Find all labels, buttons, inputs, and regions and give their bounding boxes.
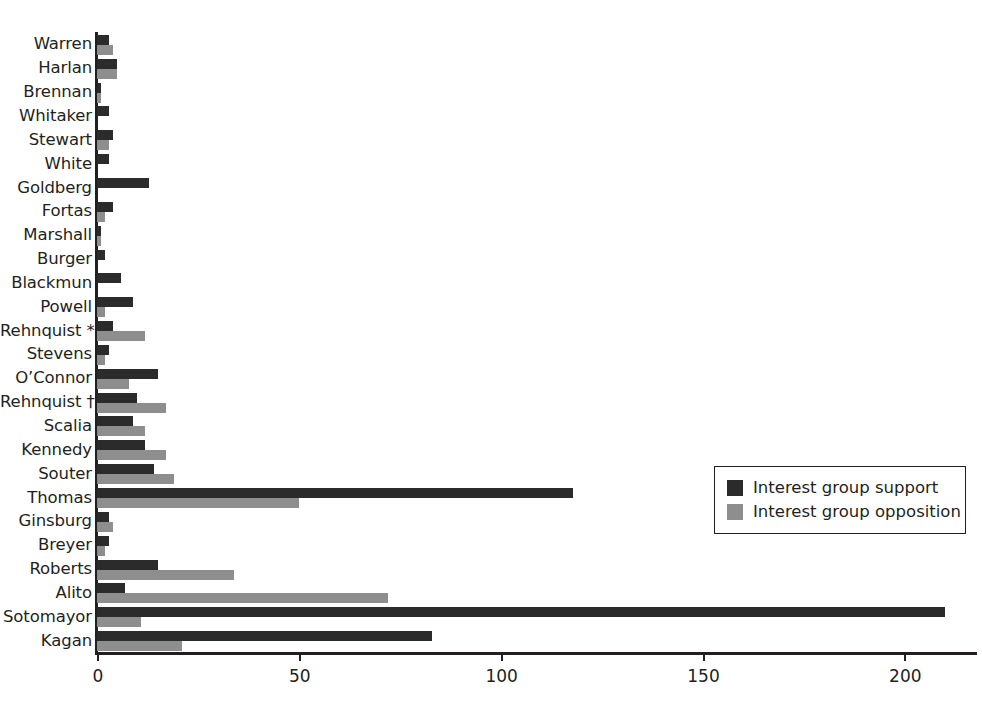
bar-group: [97, 369, 977, 389]
bar-opposition: [97, 593, 388, 603]
bar-group: [97, 226, 977, 246]
bar-opposition: [97, 450, 166, 460]
bar-opposition: [97, 307, 105, 317]
bar-group: [97, 106, 977, 126]
x-axis-tick-label: 100: [472, 666, 532, 686]
bar-opposition: [97, 331, 145, 341]
bar-opposition: [97, 617, 141, 627]
bar-opposition: [97, 212, 105, 222]
bar-group: [97, 59, 977, 79]
bar-opposition: [97, 546, 105, 556]
bar-support: [97, 106, 109, 116]
category-label: Warren: [0, 36, 92, 53]
bar-group: [97, 536, 977, 556]
bar-opposition: [97, 69, 117, 79]
x-axis-tick: [97, 652, 99, 661]
category-label: Ginsburg: [0, 513, 92, 530]
category-label: Stevens: [0, 346, 92, 363]
legend-swatch-opposition-icon: [727, 504, 743, 520]
bar-support: [97, 345, 109, 355]
bar-group: [97, 393, 977, 413]
bar-support: [97, 59, 117, 69]
bar-group: [97, 583, 977, 603]
bar-support: [97, 393, 137, 403]
bar-support: [97, 416, 133, 426]
bar-support: [97, 583, 125, 593]
chart-legend: Interest group support Interest group op…: [714, 466, 966, 534]
bar-support: [97, 250, 105, 260]
category-label: Roberts: [0, 561, 92, 578]
bar-group: [97, 321, 977, 341]
x-axis-tick-label: 150: [674, 666, 734, 686]
category-label: Rehnquist *: [0, 323, 92, 340]
x-axis-tick: [703, 652, 705, 661]
category-label: Scalia: [0, 418, 92, 435]
bar-support: [97, 321, 113, 331]
bar-opposition: [97, 403, 166, 413]
category-label: Blackmun: [0, 275, 92, 292]
category-label: Thomas: [0, 490, 92, 507]
x-axis-tick: [299, 652, 301, 661]
category-label: Souter: [0, 466, 92, 483]
bar-support: [97, 226, 101, 236]
bar-support: [97, 202, 113, 212]
bar-support: [97, 440, 145, 450]
bar-group: [97, 250, 977, 270]
bar-opposition: [97, 93, 101, 103]
bar-group: [97, 440, 977, 460]
bar-opposition: [97, 474, 174, 484]
bar-opposition: [97, 379, 129, 389]
legend-item-opposition: Interest group opposition: [727, 500, 953, 524]
legend-item-support: Interest group support: [727, 476, 953, 500]
x-axis-tick: [904, 652, 906, 661]
x-axis-tick: [501, 652, 503, 661]
bar-opposition: [97, 522, 113, 532]
category-label: Kagan: [0, 633, 92, 650]
bar-group: [97, 607, 977, 627]
bar-group: [97, 345, 977, 365]
bar-support: [97, 178, 149, 188]
bar-opposition: [97, 641, 182, 651]
bar-support: [97, 273, 121, 283]
category-label: Stewart: [0, 132, 92, 149]
bar-group: [97, 154, 977, 174]
bar-group: [97, 631, 977, 651]
bar-group: [97, 273, 977, 293]
category-label: Kennedy: [0, 442, 92, 459]
legend-swatch-support-icon: [727, 480, 743, 496]
category-label: Alito: [0, 585, 92, 602]
bar-support: [97, 154, 109, 164]
category-label: O’Connor: [0, 370, 92, 387]
bar-support: [97, 35, 109, 45]
x-axis-tick-label: 50: [270, 666, 330, 686]
bar-group: [97, 416, 977, 436]
bar-group: [97, 560, 977, 580]
bar-support: [97, 369, 158, 379]
category-label: Burger: [0, 251, 92, 268]
bar-opposition: [97, 355, 105, 365]
category-label: Whitaker: [0, 108, 92, 125]
bar-opposition: [97, 140, 109, 150]
category-axis-labels: WarrenHarlanBrennanWhitakerStewartWhiteG…: [0, 33, 92, 653]
bar-support: [97, 297, 133, 307]
bar-group: [97, 83, 977, 103]
bar-support: [97, 83, 101, 93]
legend-label-opposition: Interest group opposition: [753, 503, 961, 521]
bar-group: [97, 130, 977, 150]
category-label: White: [0, 156, 92, 173]
bar-support: [97, 130, 113, 140]
plot-area: [97, 33, 977, 653]
bar-opposition: [97, 498, 299, 508]
category-label: Goldberg: [0, 180, 92, 197]
category-label: Sotomayor: [0, 609, 92, 626]
category-label: Harlan: [0, 60, 92, 77]
bar-group: [97, 35, 977, 55]
legend-label-support: Interest group support: [753, 479, 938, 497]
bar-group: [97, 202, 977, 222]
bar-support: [97, 560, 158, 570]
bar-support: [97, 488, 573, 498]
category-label: Powell: [0, 299, 92, 316]
bar-opposition: [97, 236, 101, 246]
bar-support: [97, 512, 109, 522]
bar-opposition: [97, 45, 113, 55]
